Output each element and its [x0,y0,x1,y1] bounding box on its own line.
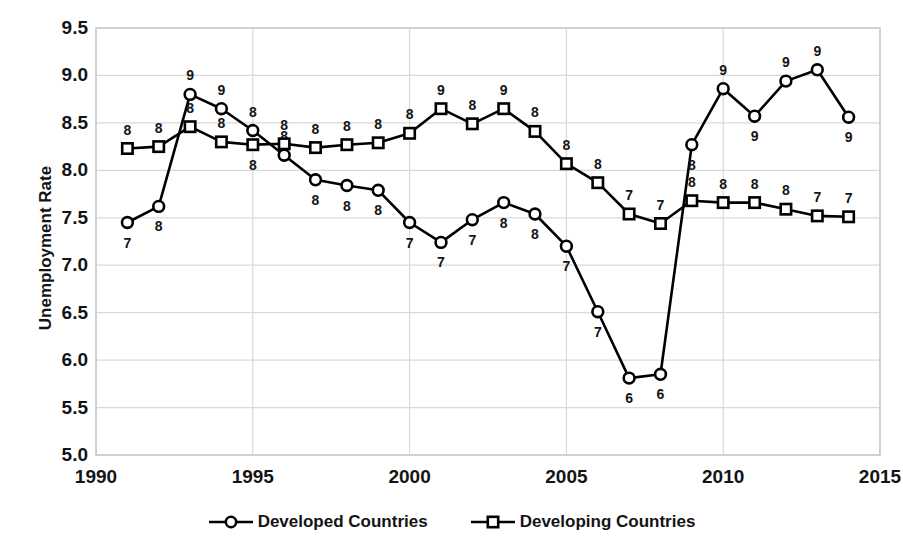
data-point-marker [185,122,195,132]
data-point-label: 8 [155,218,163,234]
data-point-marker [592,306,603,317]
data-point-marker [153,201,164,212]
data-point-label: 9 [813,43,821,59]
data-point-marker [247,125,258,136]
data-point-marker [655,369,666,380]
data-point-label: 8 [374,202,382,218]
data-point-label: 8 [688,157,696,173]
data-point-label: 7 [563,258,571,274]
data-point-marker [404,217,415,228]
data-point-label: 8 [782,182,790,198]
data-point-marker [279,139,289,149]
data-point-label: 8 [343,198,351,214]
data-point-label: 8 [531,104,539,120]
data-point-marker [499,104,509,114]
data-point-marker [373,138,383,148]
data-point-marker [593,178,603,188]
data-point-marker [404,128,414,138]
data-point-marker [310,142,320,152]
data-point-marker [467,214,478,225]
data-point-label: 8 [563,137,571,153]
chart-screenshot: Unemployment Rate 9.59.08.58.07.57.06.56… [0,0,903,553]
data-point-label: 8 [249,104,257,120]
data-point-label: 7 [437,254,445,270]
data-point-marker [216,103,227,114]
unemployment-rate-line-chart: Unemployment Rate 9.59.08.58.07.57.06.56… [0,0,903,553]
data-point-marker [185,89,196,100]
data-point-label: 8 [594,156,602,172]
data-point-marker [843,212,853,222]
data-point-label: 8 [751,176,759,192]
x-axis-tick-label: 2010 [702,466,744,488]
data-point-label: 8 [500,215,508,231]
data-point-label: 6 [625,390,633,406]
data-point-marker [781,204,791,214]
data-point-marker [373,185,384,196]
data-point-label: 8 [343,118,351,134]
data-point-marker [655,218,665,228]
data-point-marker [687,196,697,206]
data-point-marker [812,64,823,75]
x-axis-tick-label: 1995 [232,466,274,488]
data-point-label: 9 [782,54,790,70]
data-point-marker [279,150,290,161]
data-point-label: 8 [688,174,696,190]
chart-legend: Developed CountriesDeveloping Countries [0,512,903,532]
data-point-marker [781,76,792,87]
data-point-marker [718,197,728,207]
plot-border [96,28,880,455]
legend-item-2[interactable]: Developing Countries [470,512,696,532]
data-point-label: 8 [218,115,226,131]
data-point-label: 6 [657,386,665,402]
data-point-marker [436,104,446,114]
data-point-marker [749,111,760,122]
data-point-label: 8 [249,157,257,173]
data-point-label: 7 [406,235,414,251]
data-point-marker [467,119,477,129]
series-line-2 [127,109,848,224]
data-point-marker [530,209,541,220]
data-point-marker [561,241,572,252]
legend-square-marker-icon [470,512,516,532]
data-point-marker [154,141,164,151]
data-point-marker [310,174,321,185]
data-point-label: 8 [312,192,320,208]
data-point-label: 8 [312,121,320,137]
data-point-label: 8 [406,106,414,122]
data-point-marker [843,112,854,123]
data-point-marker [498,197,509,208]
data-point-label: 8 [280,117,288,133]
data-point-marker [216,137,226,147]
data-point-label: 7 [124,235,132,251]
data-point-marker [686,139,697,150]
data-point-marker [122,143,132,153]
data-point-marker [624,373,635,384]
data-point-label: 9 [845,129,853,145]
data-point-marker [718,83,729,94]
plot-area: 7899888887778877668999998888888888989888… [0,0,903,470]
data-point-label: 9 [186,67,194,83]
data-point-label: 7 [594,324,602,340]
data-point-marker [122,217,133,228]
data-point-marker [436,237,447,248]
data-point-label: 9 [218,82,226,98]
data-point-label: 8 [186,100,194,116]
x-axis-tick-label: 2005 [545,466,587,488]
data-point-label: 8 [124,122,132,138]
data-point-marker [812,211,822,221]
data-point-label: 8 [155,120,163,136]
data-point-marker [624,209,634,219]
legend-item-1[interactable]: Developed Countries [208,512,428,532]
data-point-label: 9 [437,82,445,98]
x-axis-tick-labels: 199019952000200520102015 [0,466,903,496]
data-point-label: 7 [813,189,821,205]
data-point-label: 9 [500,82,508,98]
legend-label: Developed Countries [258,512,428,532]
data-point-marker [342,140,352,150]
data-point-label: 8 [719,176,727,192]
data-point-label: 8 [374,116,382,132]
x-axis-tick-label: 2015 [859,466,901,488]
data-point-label: 9 [719,62,727,78]
data-point-label: 9 [751,128,759,144]
data-point-label: 7 [625,187,633,203]
